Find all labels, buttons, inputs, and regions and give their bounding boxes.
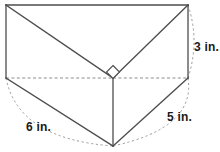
dimension-label-height: 3 in.: [194, 41, 219, 53]
dimension-label-leg-left: 6 in.: [26, 121, 51, 133]
edge-topright-to-apexback: [113, 5, 188, 78]
dimension-label-leg-right: 5 in.: [167, 111, 192, 123]
prism-figure: 3 in. 5 in. 6 in.: [0, 0, 220, 152]
edge-topleft-to-apexback: [6, 5, 113, 78]
right-angle-marker: [107, 66, 120, 79]
